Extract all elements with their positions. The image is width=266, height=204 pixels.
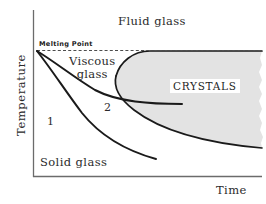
crystal-region-shading bbox=[115, 51, 263, 148]
region-label-crystals: CRYSTALS bbox=[170, 79, 240, 93]
viscous-glass-line-1: Viscous bbox=[69, 54, 115, 68]
melting-point-label: Melting Point bbox=[39, 40, 93, 48]
x-axis-label: Time bbox=[216, 183, 247, 197]
ttt-diagram-figure: Fluid glass Viscousglass Solid glass CRY… bbox=[0, 0, 266, 204]
region-label-fluid-glass: Fluid glass bbox=[118, 14, 186, 28]
region-label-solid-glass: Solid glass bbox=[40, 155, 107, 169]
chart-canvas bbox=[0, 0, 266, 204]
curve-label-2: 2 bbox=[104, 101, 111, 114]
y-axis-label: Temperature bbox=[14, 50, 28, 140]
curve-label-1: 1 bbox=[47, 115, 54, 128]
viscous-glass-line-2: glass bbox=[69, 68, 115, 81]
region-label-viscous-glass: Viscousglass bbox=[69, 55, 115, 80]
